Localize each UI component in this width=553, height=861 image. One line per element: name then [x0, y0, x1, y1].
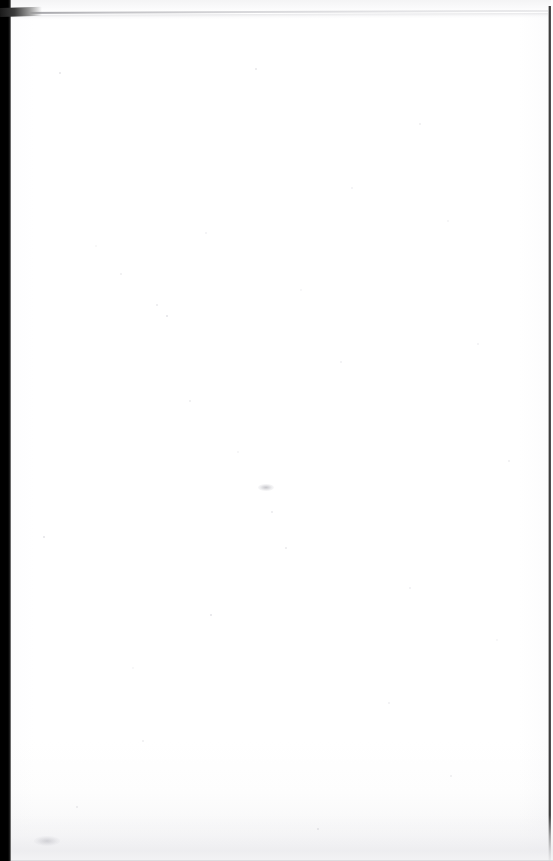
black-scan-border [0, 0, 11, 861]
thin-dark-border [548, 6, 551, 861]
page-content-area [11, 20, 547, 841]
top-left-dark-wedge [0, 7, 42, 17]
scanned-page [0, 0, 553, 861]
